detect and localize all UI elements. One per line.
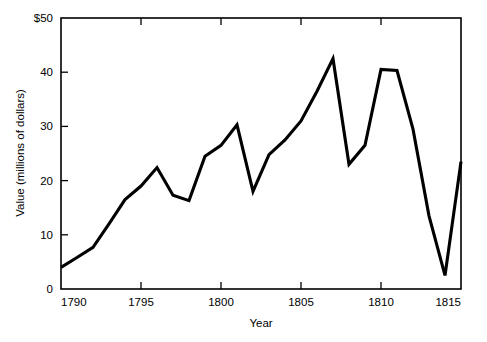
- y-axis-title: Value (millions of dollars): [14, 89, 26, 217]
- x-tick-label: 1815: [435, 296, 461, 308]
- chart-canvas: 010203040$50 179017951800180518101815 Ye…: [0, 0, 487, 342]
- x-tick-label: 1790: [61, 296, 87, 308]
- x-axis-title: Year: [249, 317, 272, 329]
- y-tick-label: 40: [40, 66, 53, 78]
- y-tick-label: 30: [40, 120, 53, 132]
- y-tick-label: 20: [40, 175, 53, 187]
- y-tick-label: 10: [40, 229, 53, 241]
- x-tick-label: 1805: [288, 296, 314, 308]
- chart-background: [0, 0, 487, 342]
- y-tick-label: $50: [34, 12, 53, 24]
- x-tick-label: 1795: [128, 296, 154, 308]
- x-tick-label: 1810: [368, 296, 394, 308]
- line-chart: 010203040$50 179017951800180518101815 Ye…: [0, 0, 487, 342]
- x-tick-label: 1800: [208, 296, 234, 308]
- y-tick-label: 0: [47, 283, 53, 295]
